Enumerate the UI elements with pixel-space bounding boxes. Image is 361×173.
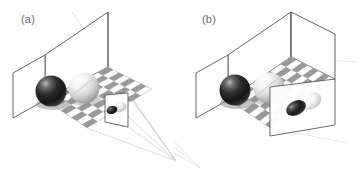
panel-a-scene	[0, 0, 181, 173]
dark-sphere	[36, 76, 67, 107]
panel-b-label: (b)	[202, 13, 216, 25]
image-plane	[105, 93, 128, 127]
figure-container: (a)	[0, 0, 361, 173]
dark-sphere	[220, 75, 251, 106]
panel-b-scene	[180, 0, 361, 173]
panel-a: (a)	[0, 0, 181, 173]
image-plane	[270, 79, 335, 136]
panel-b: (b)	[180, 0, 361, 173]
projection-ray	[87, 128, 176, 161]
projection-ray	[128, 127, 176, 161]
panel-a-label: (a)	[21, 13, 35, 25]
